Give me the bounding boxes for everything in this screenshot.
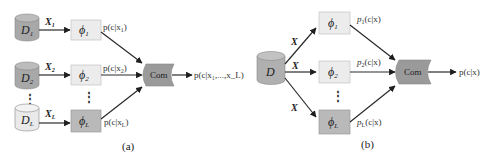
diagram-canvas: D1 D2 ⋮ DL X1 X2 XL ϕ1 ϕ2 — [0, 0, 499, 161]
input-label-2: X2 — [44, 61, 55, 73]
source-label: D — [265, 65, 275, 79]
classifier-box-2: ϕ2 — [71, 65, 101, 85]
input-label-1: X1 — [44, 16, 55, 28]
input-label-L: XL — [44, 108, 56, 120]
data-source-cylinder-L: DL — [15, 104, 39, 131]
panel-b: D X X X ϕ1 ϕ2 ⋮ ϕL p1(c|x) p2(c|x) pL(c|… — [257, 12, 480, 151]
output-arrow-1 — [350, 25, 395, 60]
final-output-label: p(c|x₁,...,x_L) — [194, 70, 244, 80]
input-label-2: X — [291, 60, 299, 71]
classifier-box-L: ϕL — [319, 110, 350, 134]
classifier-output-L: p(c|xL) — [104, 117, 128, 128]
output-arrow-1 — [101, 32, 142, 63]
combiner-label: Com — [150, 70, 168, 80]
final-output-label: p(c|x) — [459, 67, 480, 77]
data-source-cylinder-2: D2 — [15, 62, 39, 89]
combiner-label: Com — [404, 67, 422, 77]
classifier-box-2: ϕ2 — [319, 61, 350, 83]
classifier-output-2: p2(c|x) — [356, 57, 381, 68]
output-arrow-L — [101, 87, 142, 119]
combiner-shape: Com — [143, 64, 174, 86]
data-source-cylinder: D — [257, 52, 285, 85]
input-arrow-1 — [285, 28, 316, 64]
classifier-box-1: ϕ1 — [319, 12, 350, 34]
combiner-shape: Com — [396, 60, 432, 84]
input-arrow-L — [285, 78, 316, 117]
classifiers-ellipsis: ⋮ — [83, 90, 95, 104]
caption-b: (b) — [361, 138, 374, 151]
classifiers-ellipsis: ⋮ — [332, 89, 344, 103]
input-label-1: X — [290, 36, 298, 47]
classifier-output-1: p1(c|x) — [356, 14, 381, 25]
classifier-output-1: p(c|x1) — [103, 22, 127, 33]
classifier-box-L: ϕL — [71, 110, 101, 132]
data-source-cylinder-1: D1 — [15, 14, 39, 41]
caption-a: (a) — [122, 140, 135, 153]
classifier-output-L: pL(c|x) — [356, 117, 381, 128]
panel-a: D1 D2 ⋮ DL X1 X2 XL ϕ1 ϕ2 — [15, 14, 244, 153]
input-label-L: X — [290, 102, 298, 113]
classifier-box-1: ϕ1 — [71, 20, 101, 40]
classifier-output-2: p(c|x2) — [103, 63, 127, 74]
